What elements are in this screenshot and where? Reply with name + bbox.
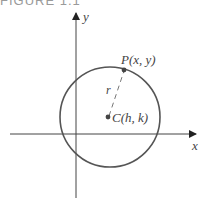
point-p: [122, 68, 127, 73]
center-point: [106, 115, 111, 120]
circle-diagram: y x P(x, y) C(h, k) r: [0, 0, 203, 206]
point-label: P(x, y): [120, 52, 156, 67]
x-axis-label: x: [191, 138, 198, 153]
y-axis-label: y: [81, 9, 89, 24]
center-label: C(h, k): [112, 110, 148, 125]
radius-label: r: [106, 83, 111, 97]
